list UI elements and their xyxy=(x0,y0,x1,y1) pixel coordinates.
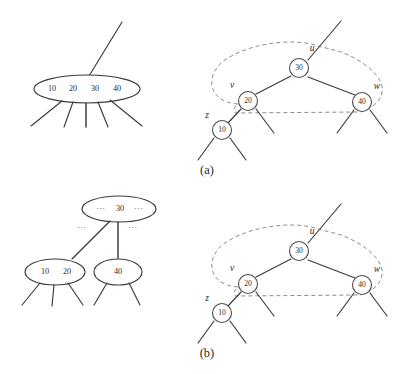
split-left-child-key-20: 20 xyxy=(63,267,71,276)
child-edge-stub-2 xyxy=(64,102,73,127)
panel-b-multiway-split-diagram: ··· 30 ··· ··· ··· 10 20 40 xyxy=(22,196,156,306)
root-parent-edge-b xyxy=(308,204,341,243)
panel-b-bst-diagram: 30 20 40 10 u v w z xyxy=(198,204,387,343)
leaf-stub-10-left-b xyxy=(198,321,214,343)
split-right-child-key-40: 40 xyxy=(114,267,122,276)
bst-key-left: 20 xyxy=(244,96,252,105)
bst-label-w: w xyxy=(374,81,381,91)
leaf-stub-10-left xyxy=(198,138,214,160)
bst-label-z-b: z xyxy=(204,293,209,303)
panel-a-multiway-node-diagram: 10 20 30 40 xyxy=(31,22,142,127)
split-right-child-stub-2 xyxy=(129,283,140,305)
leaf-stub-10-right-b xyxy=(230,321,246,343)
panel-a: 10 20 30 40 30 xyxy=(31,21,387,177)
leaf-stub-10-right xyxy=(230,138,246,160)
split-left-child-stub-1 xyxy=(22,283,40,305)
edge-20-to-10-b xyxy=(228,292,241,306)
panel-b-caption: (b) xyxy=(200,346,215,360)
bst-key-right-b: 40 xyxy=(358,280,366,289)
root-parent-edge xyxy=(308,21,341,60)
edge-20-to-10 xyxy=(228,109,241,123)
parent-edge-stub xyxy=(89,22,122,76)
bst-label-v: v xyxy=(230,80,235,90)
edge-30-to-20-b xyxy=(256,259,291,277)
split-left-child-stub-3 xyxy=(68,283,83,305)
leaf-stub-40-left xyxy=(337,110,354,133)
edge-30-to-40 xyxy=(308,77,355,95)
figure-canvas: 10 20 30 40 30 xyxy=(0,0,416,374)
split-left-child-ellipse xyxy=(25,259,85,285)
split-parent-left-dots: ··· xyxy=(96,204,106,213)
child-edge-stub-1 xyxy=(31,101,62,126)
split-edge-left-dots: ··· xyxy=(77,223,87,232)
panel-a-caption: (a) xyxy=(200,163,214,177)
edge-30-to-40-b xyxy=(308,260,355,278)
bst-label-v-b: v xyxy=(230,263,235,273)
multiway-key-40: 40 xyxy=(113,84,121,93)
bst-label-u-b: u xyxy=(310,226,315,236)
bst-label-w-b: w xyxy=(374,264,381,274)
split-right-child-stub-1 xyxy=(94,283,107,305)
bst-key-left-b: 20 xyxy=(244,279,252,288)
panel-b: ··· 30 ··· ··· ··· 10 20 40 xyxy=(22,196,387,360)
leaf-stub-40-left-b xyxy=(337,293,354,316)
child-edge-stub-4 xyxy=(98,102,108,127)
panel-a-bst-diagram: 30 20 40 10 u v w z xyxy=(198,21,387,160)
bst-key-leftleft-b: 10 xyxy=(218,308,226,317)
bst-key-right: 40 xyxy=(358,97,366,106)
multiway-key-20: 20 xyxy=(69,84,77,93)
leaf-stub-40-right-b xyxy=(370,293,387,316)
bst-key-root: 30 xyxy=(295,63,303,72)
split-parent-key-30: 30 xyxy=(116,204,124,213)
bst-key-leftleft: 10 xyxy=(218,125,226,134)
split-parent-right-dots: ··· xyxy=(134,204,144,213)
multiway-key-30: 30 xyxy=(91,84,99,93)
figure-root: 10 20 30 40 30 xyxy=(0,0,416,374)
bst-label-z: z xyxy=(204,110,209,120)
multiway-key-10: 10 xyxy=(48,84,56,93)
child-edge-stub-5 xyxy=(110,100,142,126)
split-edge-right-dots: ··· xyxy=(128,223,138,232)
split-left-child-key-10: 10 xyxy=(41,267,49,276)
edge-30-to-20 xyxy=(256,76,291,94)
split-left-child-stub-2 xyxy=(52,285,54,306)
bst-label-u: u xyxy=(310,43,315,53)
bst-key-root-b: 30 xyxy=(295,246,303,255)
leaf-stub-40-right xyxy=(370,110,387,133)
